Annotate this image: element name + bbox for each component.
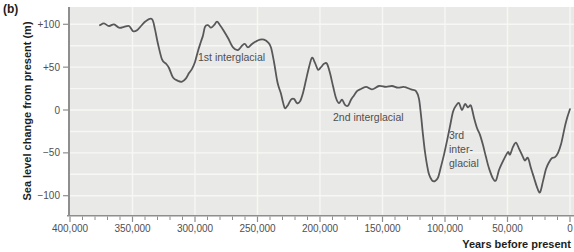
x-tick-label: 0	[567, 223, 573, 234]
annotation-line: 2nd interglacial	[333, 111, 404, 123]
figure-label: (b)	[3, 2, 18, 16]
annotation-1: 1st interglacial	[198, 51, 265, 63]
y-tick-label: 0	[54, 105, 60, 116]
x-tick-label: 150,000	[364, 223, 401, 234]
annotation-line: glacial	[449, 157, 479, 169]
annotation-2: 2nd interglacial	[333, 111, 404, 123]
x-tick-label: 350,000	[114, 223, 151, 234]
sea-level-figure: +100+500−50−100400,000350,000300,000250,…	[0, 0, 574, 252]
x-tick-label: 250,000	[239, 223, 276, 234]
x-tick-label: 100,000	[427, 223, 464, 234]
y-tick-label: −100	[37, 190, 60, 201]
x-axis-title: Years before present	[462, 238, 571, 250]
y-axis-title: Sea level change from present (m)	[21, 21, 33, 200]
annotation-line: 3rd	[449, 129, 464, 141]
annotation-line: inter-	[449, 143, 473, 155]
x-tick-label: 50,000	[492, 223, 523, 234]
annotation-line: 1st interglacial	[198, 51, 265, 63]
plot-background	[69, 7, 574, 215]
x-tick-label: 200,000	[302, 223, 339, 234]
y-tick-label: +50	[43, 62, 60, 73]
x-tick-label: 400,000	[52, 223, 89, 234]
sea-level-chart: +100+500−50−100400,000350,000300,000250,…	[0, 0, 574, 252]
x-tick-label: 300,000	[177, 223, 214, 234]
y-tick-label: −50	[43, 147, 60, 158]
y-tick-label: +100	[37, 19, 60, 30]
